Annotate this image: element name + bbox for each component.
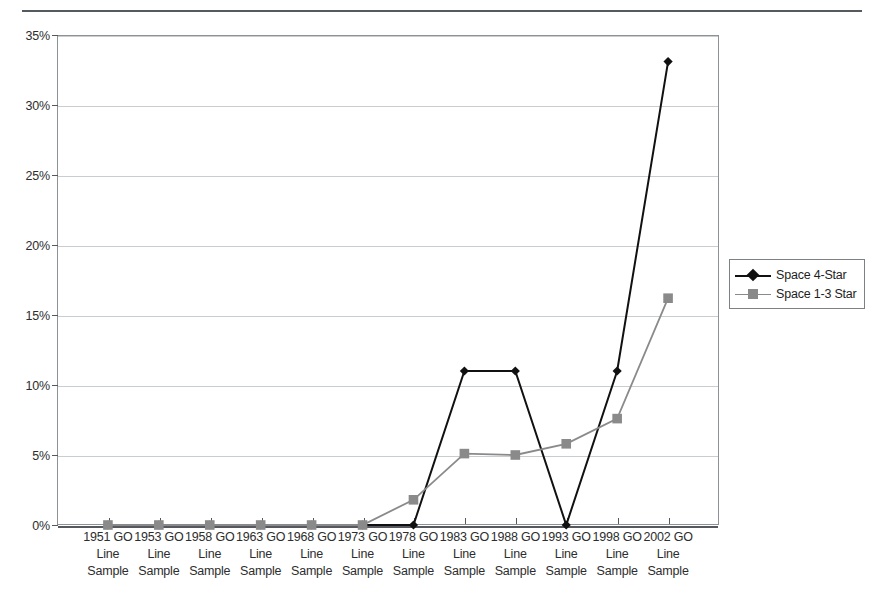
series-line — [108, 62, 668, 525]
x-axis-label-line: Sample — [440, 563, 489, 580]
chart-figure: 0%5%10%15%20%25%30%35% 1951 GOLineSample… — [0, 0, 881, 611]
data-point-marker — [460, 449, 470, 459]
x-axis-label-line: 1953 GO — [134, 529, 183, 546]
chart-legend: Space 4-StarSpace 1-3 Star — [729, 259, 865, 309]
x-axis-label: 1973 GOLineSample — [338, 529, 387, 580]
x-axis-label-line: 1978 GO — [389, 529, 438, 546]
x-axis-label: 1978 GOLineSample — [389, 529, 438, 580]
x-axis-label-line: Sample — [185, 563, 234, 580]
x-axis-label-line: Sample — [236, 563, 285, 580]
x-axis-label-line: Sample — [83, 563, 132, 580]
legend-swatch — [735, 268, 771, 282]
legend-item[interactable]: Space 4-Star — [735, 265, 857, 284]
x-axis-label: 2002 GOLineSample — [643, 529, 692, 580]
header-divider — [22, 10, 862, 12]
x-axis-label-line: 2002 GO — [643, 529, 692, 546]
series-1 — [103, 57, 672, 530]
x-axis-label-line: Sample — [592, 563, 641, 580]
data-point-marker — [561, 439, 571, 449]
y-axis-tick-label: 15% — [26, 309, 50, 323]
x-axis-label: 1993 GOLineSample — [542, 529, 591, 580]
x-axis-label-line: Line — [491, 546, 540, 563]
y-axis-tick-label: 25% — [26, 169, 50, 183]
x-axis-label-line: Line — [83, 546, 132, 563]
x-axis-label-line: 1998 GO — [592, 529, 641, 546]
x-axis-label-line: 1963 GO — [236, 529, 285, 546]
y-axis-tick-label: 5% — [32, 449, 50, 463]
x-axis-label-line: Line — [592, 546, 641, 563]
x-axis-label-line: Sample — [134, 563, 183, 580]
x-axis-label-line: Sample — [542, 563, 591, 580]
y-axis-tick-label: 10% — [26, 379, 50, 393]
y-axis-tick-label: 30% — [26, 99, 50, 113]
series-layer — [57, 35, 719, 525]
x-axis-label-line: Line — [185, 546, 234, 563]
x-axis-label: 1968 GOLineSample — [287, 529, 336, 580]
x-axis-label-line: 1988 GO — [491, 529, 540, 546]
legend-label: Space 4-Star — [776, 268, 847, 282]
x-axis-label-line: Line — [236, 546, 285, 563]
x-axis-label-line: Sample — [491, 563, 540, 580]
x-axis-label-line: Line — [389, 546, 438, 563]
x-axis-label-line: Line — [338, 546, 387, 563]
x-axis-label-line: 1968 GO — [287, 529, 336, 546]
diamond-marker-icon — [747, 268, 760, 281]
x-axis-label: 1953 GOLineSample — [134, 529, 183, 580]
series-2 — [103, 293, 673, 529]
x-axis-label-line: Sample — [338, 563, 387, 580]
data-point-marker — [663, 293, 673, 303]
legend-swatch — [735, 287, 771, 301]
x-axis-label-line: 1993 GO — [542, 529, 591, 546]
x-axis-label-line: Sample — [643, 563, 692, 580]
x-axis-labels: 1951 GOLineSample1953 GOLineSample1958 G… — [57, 529, 719, 605]
x-axis-label-line: Line — [542, 546, 591, 563]
legend-label: Space 1-3 Star — [776, 287, 857, 301]
data-point-marker — [663, 57, 672, 66]
x-axis-label-line: 1983 GO — [440, 529, 489, 546]
x-axis-label-line: 1973 GO — [338, 529, 387, 546]
x-axis-label: 1998 GOLineSample — [592, 529, 641, 580]
data-point-marker — [511, 366, 520, 375]
y-axis-tick-label: 20% — [26, 239, 50, 253]
y-axis-tick-label: 35% — [26, 29, 50, 43]
x-axis-label: 1951 GOLineSample — [83, 529, 132, 580]
square-marker-icon — [748, 289, 758, 299]
x-axis-label-line: 1951 GO — [83, 529, 132, 546]
x-axis-label-line: 1958 GO — [185, 529, 234, 546]
x-axis-label-line: Line — [440, 546, 489, 563]
series-line — [108, 298, 668, 525]
x-axis-label: 1963 GOLineSample — [236, 529, 285, 580]
x-axis-label: 1958 GOLineSample — [185, 529, 234, 580]
data-point-marker — [511, 450, 521, 460]
data-point-marker — [612, 414, 622, 424]
x-axis-label-line: Sample — [389, 563, 438, 580]
data-point-marker — [409, 495, 419, 505]
x-axis-label-line: Line — [134, 546, 183, 563]
x-axis-label: 1983 GOLineSample — [440, 529, 489, 580]
y-axis-tick-mark — [52, 525, 58, 526]
data-point-marker — [613, 366, 622, 375]
y-axis-tick-label: 0% — [32, 519, 50, 533]
x-axis-label-line: Line — [287, 546, 336, 563]
legend-item[interactable]: Space 1-3 Star — [735, 284, 857, 303]
x-axis-label: 1988 GOLineSample — [491, 529, 540, 580]
x-axis-label-line: Sample — [287, 563, 336, 580]
x-axis-label-line: Line — [643, 546, 692, 563]
data-point-marker — [460, 366, 469, 375]
